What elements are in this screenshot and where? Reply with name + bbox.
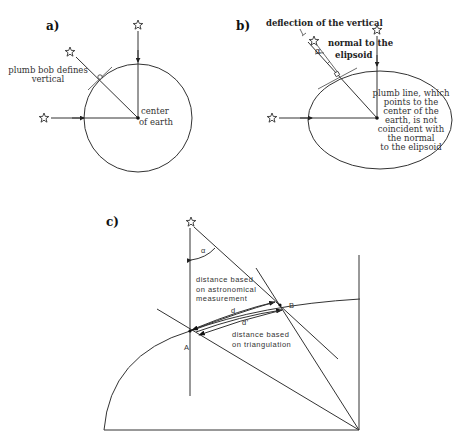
point-b-label: B — [289, 301, 295, 310]
point-a-label: A — [184, 343, 190, 352]
alpha-symbol: α — [315, 46, 321, 56]
star-icon — [65, 47, 75, 56]
center-earth-text: center — [141, 106, 170, 116]
astro-text: measurement — [196, 294, 248, 303]
svg-text:to the elipsoid: to the elipsoid — [380, 142, 442, 152]
point-a-marker — [188, 329, 191, 332]
panel-a: a) plumb bob defines vertical center of … — [8, 19, 192, 172]
star-icon — [133, 20, 143, 29]
normal-text: normal to the — [328, 38, 394, 48]
deflection-text: deflection of the vertical — [266, 18, 384, 28]
star-icon — [267, 113, 277, 122]
alpha-symbol: α — [201, 246, 206, 255]
normal-text: elipsoid — [335, 50, 372, 60]
plumb-line-caption: plumb line, which points to the center o… — [373, 88, 450, 152]
star-icon — [39, 113, 49, 122]
triangulation-text: on triangulation — [232, 340, 291, 349]
astro-text: on astronomical — [196, 285, 256, 294]
panel-c: c) α distance based on astronomical meas… — [104, 215, 360, 430]
d-label: d — [231, 306, 236, 315]
astro-text: distance based — [196, 275, 253, 284]
triangulation-text: distance based — [232, 330, 289, 339]
center-earth-text: of earth — [139, 117, 174, 127]
diagram-canvas: a) plumb bob defines vertical center of … — [0, 0, 459, 441]
normal-line-b — [256, 268, 359, 430]
center-point — [375, 116, 379, 120]
panel-c-label: c) — [106, 215, 119, 229]
panel-a-label: a) — [46, 19, 59, 33]
star-icon — [309, 36, 319, 45]
panel-b: b) deflection of the vertical α normal t… — [236, 18, 452, 169]
plumb-bob-text: vertical — [31, 74, 65, 84]
leader-line — [300, 29, 303, 35]
panel-b-label: b) — [236, 19, 250, 33]
star-icon — [186, 217, 196, 226]
normal-line-a — [157, 309, 359, 430]
d-prime-label: d' — [242, 318, 249, 327]
point-b-marker — [278, 303, 281, 306]
earth-arc — [104, 299, 360, 430]
plumb-bob-icon — [98, 75, 102, 79]
